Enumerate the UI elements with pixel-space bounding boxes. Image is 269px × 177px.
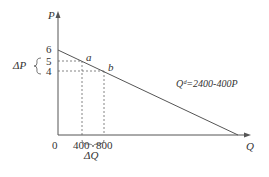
tick-4: 4 — [46, 66, 52, 77]
delta-q-label: ΔQ — [84, 150, 98, 161]
delta-p-brace — [34, 58, 41, 74]
point-b-label: b — [108, 62, 114, 73]
tick-6: 6 — [46, 44, 52, 55]
tick-800: 800 — [96, 140, 113, 151]
demand-line — [58, 50, 238, 135]
p-axis-label: P — [48, 10, 55, 21]
delta-p-label: ΔP — [13, 60, 26, 71]
y-axis-arrow-icon — [56, 11, 61, 18]
q-axis-label: Q — [246, 141, 254, 152]
tick-0: 0 — [52, 140, 58, 151]
demand-equation: Qᵈ=2400-400P — [176, 79, 238, 89]
x-axis-arrow-icon — [244, 133, 251, 138]
point-a-label: a — [86, 52, 92, 63]
